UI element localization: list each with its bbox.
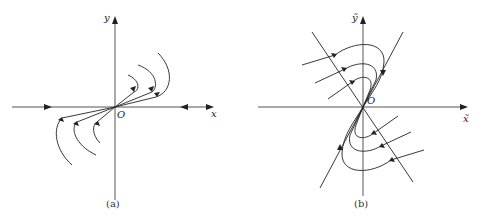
panel-a: y x O (a)	[12, 12, 217, 209]
y-axis-label-b: ỹ	[351, 12, 358, 23]
y-axis-arrowhead-a	[112, 16, 118, 24]
trajectory-b	[355, 107, 398, 138]
trajectory-b	[328, 77, 371, 107]
panel-b: ỹ x̃ O (b)	[258, 12, 469, 209]
x-axis-label-a: x	[211, 108, 217, 119]
trajectory-a	[115, 65, 155, 107]
trajectory-a	[56, 107, 115, 165]
origin-label-b: O	[367, 95, 375, 106]
trajectory-b	[342, 107, 424, 170]
flow-arrow-icon	[44, 104, 52, 110]
phase-portrait-figure: y x O (a) ỹ x̃ O (b)	[0, 0, 477, 221]
caption-a: (a)	[106, 198, 120, 209]
trajectory-a	[115, 53, 169, 107]
y-axis-label-a: y	[103, 12, 110, 23]
flow-arrow-icon	[180, 104, 188, 110]
caption-b: (b)	[354, 198, 368, 209]
trajectory-a	[94, 107, 115, 143]
x-axis-label-b: x̃	[463, 113, 469, 124]
origin-label-a: O	[117, 109, 125, 120]
